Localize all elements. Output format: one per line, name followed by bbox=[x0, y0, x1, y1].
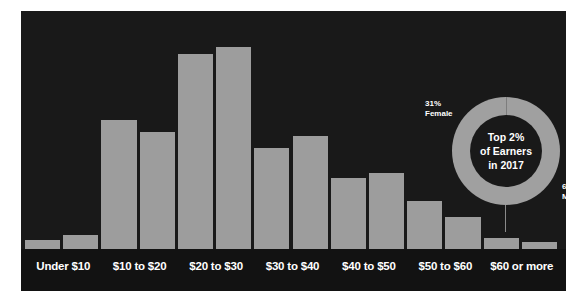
60-more-bar-1 bbox=[484, 238, 519, 250]
30-40-bar-2 bbox=[293, 136, 328, 249]
donut-segment-divider bbox=[506, 97, 508, 115]
under-10-bar-1 bbox=[25, 240, 60, 249]
50-60-bar-1 bbox=[407, 201, 442, 249]
donut-line-3: in 2017 bbox=[488, 158, 524, 172]
donut-callout-male: 69% Male bbox=[562, 182, 566, 202]
50-60-bar-2 bbox=[445, 217, 480, 249]
donut-callout-female: 31% Female bbox=[425, 99, 453, 119]
20-30-bar-2 bbox=[216, 47, 251, 249]
donut-center-label: Top 2% of Earners in 2017 bbox=[470, 115, 542, 187]
donut-line-2: of Earners bbox=[480, 144, 532, 158]
category-label-7: $60 or more bbox=[442, 260, 566, 272]
60-more-bar-2 bbox=[522, 242, 557, 249]
under-10-bar-2 bbox=[63, 235, 98, 249]
male-percent: 69% bbox=[562, 182, 566, 192]
donut-leader-line bbox=[505, 205, 506, 232]
40-50-bar-1 bbox=[331, 178, 366, 249]
donut-chart: Top 2% of Earners in 2017 bbox=[452, 97, 560, 205]
30-40-bar-1 bbox=[254, 148, 289, 249]
donut-line-1: Top 2% bbox=[488, 130, 525, 144]
female-percent: 31% bbox=[425, 99, 453, 109]
10-20-bar-2 bbox=[140, 132, 175, 249]
20-30-bar-1 bbox=[178, 54, 213, 250]
40-50-bar-2 bbox=[369, 173, 404, 249]
chart-figure: Under $10$10 to $20$20 to $30$30 to $40$… bbox=[0, 0, 582, 304]
10-20-bar-1 bbox=[101, 120, 136, 249]
category-label-band: Under $10$10 to $20$20 to $30$30 to $40$… bbox=[21, 249, 566, 291]
female-label: Female bbox=[425, 109, 453, 119]
chart-panel: Under $10$10 to $20$20 to $30$30 to $40$… bbox=[21, 11, 566, 291]
male-label: Male bbox=[562, 192, 566, 202]
